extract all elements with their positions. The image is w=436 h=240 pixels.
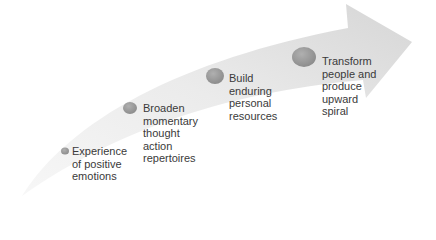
step-dot-4: [292, 47, 316, 67]
step-dot-2: [123, 102, 137, 114]
step-label-4: Transform people and produce upward spir…: [322, 55, 376, 118]
step-dot-3: [206, 68, 224, 84]
step-label-3: Build enduring personal resources: [229, 72, 277, 122]
step-dot-1: [61, 148, 69, 155]
step-label-2: Broaden momentary thought action reperto…: [143, 102, 198, 165]
step-label-1: Experience of positive emotions: [72, 145, 127, 183]
